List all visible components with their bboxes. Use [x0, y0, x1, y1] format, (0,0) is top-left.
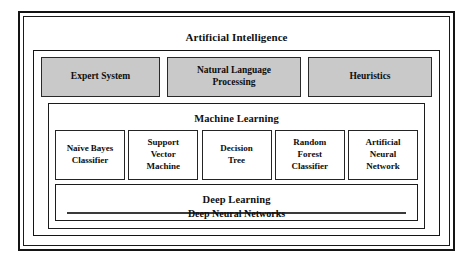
machine-learning-container: Machine Learning Naïve BayesClassifier S… [48, 103, 425, 229]
machine-learning-algorithm-row: Naïve BayesClassifier SupportVectorMachi… [55, 130, 418, 180]
ai-technique-row: Expert System Natural LanguageProcessing… [41, 57, 432, 97]
algorithm-box-random-forest-classifier: RandomForestClassifier [275, 130, 345, 180]
technique-box-expert-system: Expert System [41, 57, 160, 97]
machine-learning-label: Machine Learning [49, 113, 424, 125]
artificial-intelligence-label: Artificial Intelligence [24, 31, 449, 43]
technique-box-heuristics: Heuristics [308, 57, 432, 97]
deep-neural-networks-box: Deep Neural Networks [67, 212, 406, 214]
deep-learning-container: Deep Learning Deep Neural Networks [55, 184, 418, 221]
algorithm-box-support-vector-machine: SupportVectorMachine [128, 130, 198, 180]
artificial-intelligence-container: Artificial Intelligence Expert System Na… [18, 11, 455, 251]
algorithm-box-artificial-neural-network: ArtificialNeuralNetwork [348, 130, 418, 180]
algorithm-box-decision-tree: DecisionTree [202, 130, 272, 180]
deep-learning-label: Deep Learning [56, 194, 417, 206]
ai-techniques-container: Expert System Natural LanguageProcessing… [33, 50, 440, 236]
artificial-intelligence-inner-border: Artificial Intelligence Expert System Na… [23, 16, 450, 246]
technique-box-natural-language-processing: Natural LanguageProcessing [167, 57, 301, 97]
algorithm-box-naive-bayes-classifier: Naïve BayesClassifier [55, 130, 125, 180]
